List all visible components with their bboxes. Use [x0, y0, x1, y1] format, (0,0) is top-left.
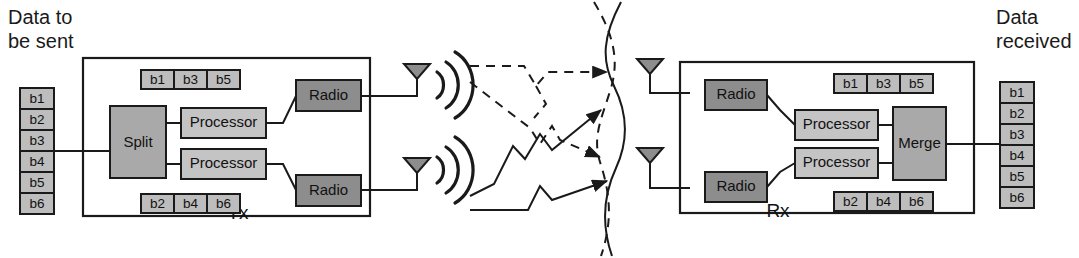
bit-label: b5	[29, 175, 44, 190]
tx-radio-upper-label: Radio	[309, 86, 348, 103]
rx-antenna-upper	[637, 59, 690, 93]
tx-stream-top-bits: b1 b3 b5	[141, 70, 240, 89]
bit-label: b4	[876, 194, 892, 209]
bit-label: b4	[183, 196, 199, 211]
antenna-icon	[404, 158, 430, 173]
bit-label: b4	[29, 154, 45, 169]
proc-to-radio-upper-wire	[266, 96, 296, 123]
data-to-be-sent-label-line1: Data to	[8, 6, 72, 28]
bit-label: b2	[29, 112, 44, 127]
merge-label: Merge	[898, 134, 941, 151]
bit-label: b5	[216, 72, 231, 87]
bit-label: b6	[29, 196, 44, 211]
fading-curve-solid	[605, 2, 625, 256]
bit-label: b1	[1009, 85, 1024, 100]
antenna-icon	[637, 148, 663, 163]
bit-label: b3	[1009, 127, 1024, 142]
data-received-label-line1: Data	[996, 6, 1039, 28]
rx-processor-lower-label: Processor	[803, 153, 871, 170]
tx-antenna-lower	[404, 137, 473, 203]
rx-antenna-upper-wire	[650, 74, 690, 93]
rx-antenna-lower	[637, 148, 690, 188]
antenna-icon	[637, 59, 663, 74]
bit-label: b5	[1009, 169, 1024, 184]
bit-label: b6	[909, 194, 924, 209]
tx-stream-bottom-bits: b2 b4 b6	[141, 194, 240, 213]
split-label: Split	[123, 133, 153, 150]
multipath-solid-1	[470, 110, 601, 196]
rx-radio-lower-label: Radio	[716, 177, 755, 194]
mimo-diagram: Data to be sent Data received b1 b2 b3 b…	[0, 0, 1079, 258]
data-to-be-sent-stack: b1 b2 b3 b4 b5 b6	[20, 88, 54, 214]
data-received-stack: b1 b2 b3 b4 b5 b6	[1000, 82, 1034, 208]
rx-antenna-lower-wire	[650, 163, 690, 188]
bit-label: b6	[1009, 190, 1024, 205]
tx-radio-lower-label: Radio	[309, 181, 348, 198]
rx-processor-upper-label: Processor	[803, 115, 871, 132]
bit-label: b1	[843, 76, 858, 91]
bit-label: b3	[183, 72, 198, 87]
multipath-dashed-1	[470, 66, 607, 86]
proc-to-radio-lower-wire	[266, 164, 296, 190]
diagram-canvas: Data to be sent Data received b1 b2 b3 b…	[0, 0, 1079, 258]
bit-label: b4	[1009, 148, 1025, 163]
bit-label: b3	[29, 133, 44, 148]
rx-stream-bottom-bits: b2 b4 b6	[834, 192, 933, 211]
bit-label: b5	[909, 76, 924, 91]
data-to-be-sent-label-line2: be sent	[8, 30, 74, 52]
antenna-icon	[404, 64, 430, 79]
bit-label: b3	[876, 76, 891, 91]
data-received-label-line2: received	[996, 30, 1072, 52]
tx-antenna-upper	[404, 52, 473, 118]
rx-radio-upper-to-proc-wire	[767, 95, 795, 125]
rx-radio-upper-label: Radio	[716, 85, 755, 102]
multipath-dashed-2	[470, 82, 600, 157]
radio-waves-icon	[437, 137, 473, 203]
bit-label: b1	[150, 72, 165, 87]
bit-label: b2	[150, 196, 165, 211]
bit-label: b6	[216, 196, 231, 211]
radio-waves-icon	[437, 52, 473, 118]
bit-label: b2	[1009, 106, 1024, 121]
multipath-dashed-3	[534, 86, 546, 118]
rx-radio-lower-to-proc-wire	[767, 163, 795, 187]
rx-stream-top-bits: b1 b3 b5	[834, 74, 933, 93]
bit-label: b1	[29, 91, 44, 106]
rx-label: Rx	[766, 200, 790, 221]
tx-processor-upper-label: Processor	[190, 113, 258, 130]
tx-processor-lower-label: Processor	[190, 154, 258, 171]
bit-label: b2	[843, 194, 858, 209]
